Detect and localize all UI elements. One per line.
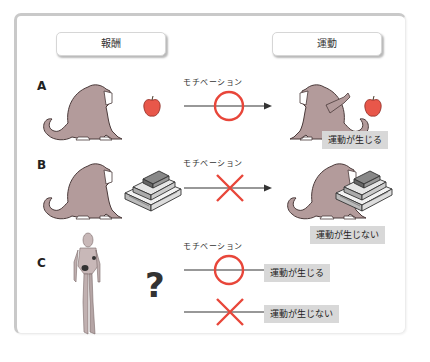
question-mark: ? xyxy=(145,265,165,305)
movement-header: 運動 xyxy=(272,32,382,56)
result-badge-c-yes: 運動が生じる xyxy=(264,264,330,282)
monkey-icon xyxy=(42,79,126,145)
result-badge-a: 運動が生じる xyxy=(322,131,388,149)
result-badge-b: 運動が生じない xyxy=(310,226,385,244)
apple-icon xyxy=(364,96,384,118)
motivation-arrow-c-yes xyxy=(184,254,276,288)
humanoid-robot-icon xyxy=(70,232,106,338)
motivation-label-b: モチベーション xyxy=(183,157,243,168)
row-label-c: C xyxy=(37,256,46,270)
reward-header: 報酬 xyxy=(56,32,166,56)
motivation-label-c: モチベーション xyxy=(183,240,243,251)
money-stack-icon xyxy=(123,167,183,213)
motivation-arrow-c-no xyxy=(184,294,276,330)
motivation-arrow-b xyxy=(184,170,276,206)
result-badge-c-no: 運動が生じない xyxy=(264,305,339,323)
apple-icon xyxy=(143,96,163,118)
motivation-label-a: モチベーション xyxy=(183,76,243,87)
monkey-icon xyxy=(42,158,126,224)
motivation-arrow-a xyxy=(184,89,276,123)
money-stack-icon xyxy=(334,167,394,213)
